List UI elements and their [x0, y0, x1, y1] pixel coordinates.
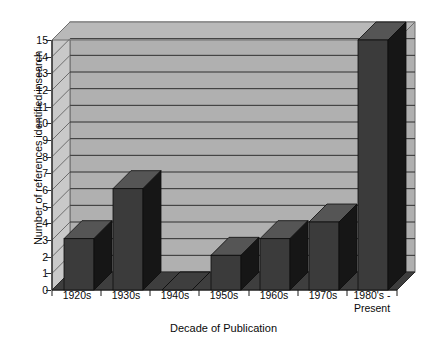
x-tick-line2: Present [341, 302, 403, 315]
y-tick-label-9: 9 [22, 135, 48, 145]
y-tick-label-6: 6 [22, 185, 48, 195]
y-tick-label-15: 15 [22, 35, 48, 45]
x-axis-title: Decade of Publication [0, 322, 447, 334]
y-tick-label-14: 14 [22, 52, 48, 62]
x-tick-label-1980s-present: 1980's - Present [341, 289, 403, 315]
x-tick-line1: 1980's - [341, 289, 403, 302]
y-tick-label-13: 13 [22, 68, 48, 78]
y-tick-label-3: 3 [22, 235, 48, 245]
y-tick-label-1: 1 [22, 268, 48, 278]
y-tick-label-7: 7 [22, 168, 48, 178]
y-tick-label-5: 5 [22, 202, 48, 212]
y-tick-label-4: 4 [22, 218, 48, 228]
bar-chart: Number of references identified insearch… [0, 0, 447, 341]
y-tick-label-11: 11 [22, 102, 48, 112]
y-tick-label-0: 0 [22, 285, 48, 295]
y-tick-label-8: 8 [22, 152, 48, 162]
y-tick-label-2: 2 [22, 252, 48, 262]
y-tick-label-10: 10 [22, 118, 48, 128]
y-tick-label-12: 12 [22, 85, 48, 95]
